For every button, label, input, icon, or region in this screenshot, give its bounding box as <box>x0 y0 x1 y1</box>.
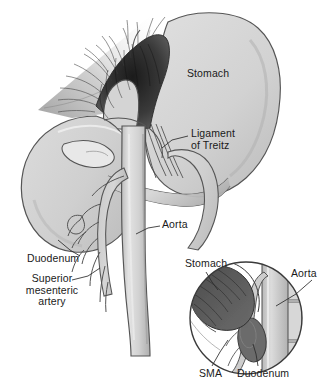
label-sma-inset: SMA <box>199 368 222 380</box>
label-duodenum-main: Duodenum <box>27 253 79 265</box>
label-sma-line1: Superior <box>32 272 73 284</box>
label-sma-line3: artery <box>38 295 65 307</box>
label-sma-line2: mesenteric <box>26 284 78 296</box>
illustration-canvas <box>0 0 332 389</box>
aorta <box>122 126 150 356</box>
anatomical-figure: Stomach Ligamentof Treitz Aorta Duodenum… <box>0 0 332 389</box>
label-ligament-line1: Ligament <box>191 127 235 139</box>
label-stomach-inset: Stomach <box>185 258 227 270</box>
label-superior-mesenteric-artery: Superiormesentericartery <box>21 273 83 308</box>
label-aorta-main: Aorta <box>162 219 188 231</box>
label-ligament-line2: of Treitz <box>191 139 229 151</box>
label-ligament-of-treitz: Ligamentof Treitz <box>191 128 235 151</box>
label-duodenum-inset: Duodenum <box>237 368 289 380</box>
label-stomach-main: Stomach <box>187 68 229 80</box>
label-aorta-inset: Aorta <box>291 268 317 280</box>
